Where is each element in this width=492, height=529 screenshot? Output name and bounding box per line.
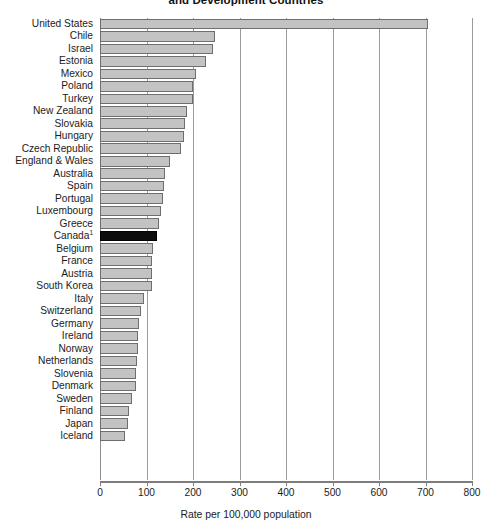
category-row: Greece <box>0 218 97 230</box>
bar-czech-republic <box>100 143 181 154</box>
category-label-slovakia: Slovakia <box>54 118 93 130</box>
bars-container <box>100 18 472 480</box>
plot-area: United StatesChileIsraelEstoniaMexicoPol… <box>0 18 492 480</box>
bar-row <box>100 368 472 380</box>
category-row: Germany <box>0 318 97 330</box>
bar-row <box>100 355 472 367</box>
bar-chile <box>100 31 215 42</box>
bar-row <box>100 180 472 192</box>
category-row: Poland <box>0 80 97 92</box>
bar-finland <box>100 406 129 417</box>
bar-japan <box>100 418 128 429</box>
bar-row <box>100 405 472 417</box>
category-row: Slovenia <box>0 368 97 380</box>
category-row: Austria <box>0 268 97 280</box>
category-row: Iceland <box>0 430 97 442</box>
category-label-austria: Austria <box>61 268 93 280</box>
category-row: Netherlands <box>0 355 97 367</box>
bar-row <box>100 343 472 355</box>
category-row: Norway <box>0 343 97 355</box>
category-label-sweden: Sweden <box>56 393 93 405</box>
bar-canada <box>100 231 157 242</box>
bar-row <box>100 218 472 230</box>
bar-estonia <box>100 56 206 67</box>
category-label-australia: Australia <box>53 168 93 180</box>
bar-row <box>100 80 472 92</box>
bar-row <box>100 330 472 342</box>
category-row: Spain <box>0 180 97 192</box>
category-label-hungary: Hungary <box>54 130 93 142</box>
category-row: Chile <box>0 30 97 42</box>
category-row: Luxembourg <box>0 205 97 217</box>
category-label-spain: Spain <box>67 180 93 192</box>
bar-italy <box>100 293 144 304</box>
bar-row <box>100 393 472 405</box>
bar-israel <box>100 44 213 55</box>
category-row: United States <box>0 18 97 30</box>
bar-sweden <box>100 393 132 404</box>
bar-row <box>100 243 472 255</box>
category-label-poland: Poland <box>61 80 93 92</box>
category-label-turkey: Turkey <box>62 93 93 105</box>
bar-row <box>100 93 472 105</box>
category-label-italy: Italy <box>74 293 93 305</box>
category-label-greece: Greece <box>60 218 93 230</box>
bar-denmark <box>100 381 136 392</box>
category-label-estonia: Estonia <box>59 55 93 67</box>
x-tick-label-300: 300 <box>231 487 248 498</box>
bar-row <box>100 305 472 317</box>
category-row: Sweden <box>0 393 97 405</box>
bar-row <box>100 143 472 155</box>
bar-row <box>100 155 472 167</box>
category-label-iceland: Iceland <box>60 430 93 442</box>
x-tick-300 <box>240 481 241 486</box>
x-tick-label-100: 100 <box>138 487 155 498</box>
category-label-luxembourg: Luxembourg <box>36 205 93 217</box>
category-row: Belgium <box>0 243 97 255</box>
category-row: New Zealand <box>0 105 97 117</box>
category-label-czech-republic: Czech Republic <box>22 143 93 155</box>
bar-united-states <box>100 19 428 30</box>
bar-row <box>100 430 472 442</box>
bar-germany <box>100 318 139 329</box>
category-label-denmark: Denmark <box>52 380 93 392</box>
bar-row <box>100 205 472 217</box>
footnote-marker: 1 <box>89 229 93 236</box>
bar-hungary <box>100 131 184 142</box>
x-axis-title: Rate per 100,000 population <box>0 509 492 520</box>
category-label-belgium: Belgium <box>56 243 93 255</box>
category-row: Mexico <box>0 68 97 80</box>
bar-slovakia <box>100 118 185 129</box>
bar-ireland <box>100 331 138 342</box>
bar-row <box>100 55 472 67</box>
bar-row <box>100 43 472 55</box>
bar-row <box>100 68 472 80</box>
bar-row <box>100 318 472 330</box>
bar-spain <box>100 181 164 192</box>
bar-row <box>100 168 472 180</box>
x-tick-200 <box>193 481 194 486</box>
category-row: Italy <box>0 293 97 305</box>
category-label-france: France <box>61 255 93 267</box>
bar-poland <box>100 81 193 92</box>
category-row: Denmark <box>0 380 97 392</box>
bar-portugal <box>100 193 163 204</box>
category-row: Turkey <box>0 93 97 105</box>
x-tick-label-400: 400 <box>278 487 295 498</box>
x-tick-800 <box>472 481 473 486</box>
bar-row <box>100 268 472 280</box>
x-tick-400 <box>286 481 287 486</box>
category-row: Switzerland <box>0 305 97 317</box>
bar-row <box>100 230 472 242</box>
category-row: France <box>0 255 97 267</box>
bar-austria <box>100 268 152 279</box>
bar-iceland <box>100 431 125 442</box>
bar-row <box>100 130 472 142</box>
bar-row <box>100 280 472 292</box>
bar-row <box>100 105 472 117</box>
bar-belgium <box>100 243 153 254</box>
bar-turkey <box>100 94 193 105</box>
x-tick-label-500: 500 <box>324 487 341 498</box>
category-label-switzerland: Switzerland <box>40 305 93 317</box>
bar-south-korea <box>100 281 152 292</box>
